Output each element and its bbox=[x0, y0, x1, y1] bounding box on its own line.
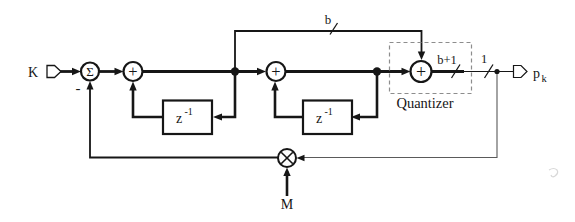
junction-dot-1 bbox=[231, 67, 239, 75]
bus-width-b-plus-1-label: b+1 bbox=[437, 53, 457, 67]
minus-sign-label: - bbox=[76, 80, 81, 96]
bus-width-1-label: 1 bbox=[481, 52, 487, 66]
output-signal-subscript: k bbox=[542, 73, 548, 84]
arrowhead-into-sum bbox=[72, 68, 81, 75]
bus-width-b-label: b bbox=[325, 12, 332, 27]
wire-loop2-out bbox=[275, 89, 303, 117]
wire-loop1-out bbox=[133, 89, 163, 117]
arrowhead-feedback-into-sum bbox=[87, 81, 94, 90]
arrowhead-into-delay1 bbox=[213, 113, 222, 120]
delay2-exponent-label: -1 bbox=[325, 106, 333, 117]
sum-sigma-label: Σ bbox=[86, 64, 94, 79]
adder1-plus-label: + bbox=[128, 62, 137, 81]
arrowhead-into-adder2 bbox=[257, 68, 266, 75]
arrowhead-top-into-quantizer bbox=[418, 52, 425, 61]
scan-artifact bbox=[549, 169, 558, 177]
delay2-z-label: z bbox=[316, 111, 322, 126]
arrowhead-m-into-multiplier bbox=[283, 168, 290, 177]
arrowhead-loop1-into-adder1 bbox=[129, 82, 136, 91]
wire-loop2-in bbox=[358, 72, 377, 118]
output-port-icon bbox=[514, 66, 528, 78]
quantizer-adder-plus-label: + bbox=[416, 62, 426, 82]
arrowhead-into-quantizer-adder bbox=[402, 68, 411, 75]
block-diagram-figure: K Σ - + + + z -1 z -1 b b+1 1 Quantizer … bbox=[0, 0, 575, 222]
delay1-exponent-label: -1 bbox=[185, 106, 193, 117]
arrowhead-into-adder1 bbox=[115, 68, 124, 75]
junction-dot-2 bbox=[373, 67, 381, 75]
input-signal-label: K bbox=[28, 65, 38, 80]
delay1-z-label: z bbox=[176, 111, 182, 126]
modulus-input-label: M bbox=[281, 197, 294, 212]
wire-loop1-in bbox=[220, 72, 235, 118]
input-port-icon bbox=[47, 66, 61, 78]
arrowhead-loop2-into-adder2 bbox=[271, 82, 278, 91]
junction-dot-output bbox=[494, 69, 499, 74]
wire-top-feedforward bbox=[235, 31, 422, 72]
diagram-canvas: K Σ - + + + z -1 z -1 b b+1 1 Quantizer … bbox=[0, 0, 575, 222]
arrowhead-into-multiplier bbox=[297, 155, 305, 161]
quantizer-caption: Quantizer bbox=[396, 95, 453, 111]
output-signal-label: p bbox=[533, 66, 540, 81]
adder2-plus-label: + bbox=[271, 62, 280, 81]
